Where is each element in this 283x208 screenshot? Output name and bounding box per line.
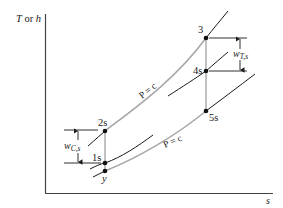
high-pressure-isobar-ext bbox=[206, 11, 228, 38]
high-pressure-isobar-left bbox=[88, 131, 105, 146]
state-point-2s bbox=[103, 129, 108, 134]
low-pressure-isobar-ext bbox=[206, 74, 255, 111]
state-point-5s bbox=[204, 109, 209, 114]
point-label-1s: 1s bbox=[92, 152, 101, 163]
state-point-3 bbox=[204, 36, 209, 41]
ts-diagram: T or h s P = c P = c wT,s bbox=[0, 0, 283, 208]
isobar-label-lower: P = c bbox=[162, 133, 184, 150]
point-label-4s: 4s bbox=[193, 65, 202, 76]
state-point-4s bbox=[204, 69, 209, 74]
point-label-2s: 2s bbox=[98, 117, 107, 128]
compressor-work-label: wC,s bbox=[64, 140, 81, 153]
x-axis-label: s bbox=[266, 195, 270, 206]
state-point-1s bbox=[103, 161, 108, 166]
high-pressure-isobar bbox=[105, 38, 206, 131]
y-axis-label: T or h bbox=[16, 13, 41, 24]
point-label-5s: 5s bbox=[209, 112, 218, 123]
point-label-3: 3 bbox=[198, 24, 203, 35]
turbine-work-label: wT,s bbox=[233, 48, 248, 61]
point-label-y: y bbox=[101, 173, 107, 184]
diagram-svg: T or h s P = c P = c wT,s bbox=[0, 0, 283, 208]
